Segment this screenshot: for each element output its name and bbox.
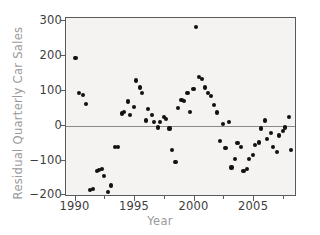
y-tick-mark [60, 194, 65, 195]
x-tick-label: 1990 [59, 199, 89, 213]
data-point [176, 106, 180, 110]
data-point [271, 145, 275, 149]
data-point [209, 94, 213, 98]
x-tick-mark-minor [223, 196, 224, 199]
data-point [126, 99, 130, 103]
data-point [218, 139, 222, 143]
data-point [275, 150, 279, 154]
data-point [239, 145, 243, 149]
data-point [152, 120, 156, 124]
y-tick-label: 200 [39, 48, 62, 62]
data-point [128, 113, 132, 117]
data-point [229, 165, 233, 169]
x-tick-mark-minor [283, 196, 284, 199]
data-point [84, 102, 88, 106]
x-tick-label: 1995 [119, 199, 149, 213]
y-tick-mark [60, 55, 65, 56]
data-point [283, 125, 287, 129]
data-point [106, 190, 110, 194]
data-point [257, 140, 261, 144]
data-point [263, 118, 267, 122]
data-point [259, 126, 263, 130]
y-tick-mark [60, 20, 65, 21]
data-point [185, 91, 189, 95]
data-point [150, 113, 154, 117]
data-point [245, 167, 249, 171]
y-tick-label: −100 [30, 153, 62, 167]
data-point [265, 137, 269, 141]
data-point [191, 87, 195, 91]
data-point [173, 160, 177, 164]
data-point [134, 78, 138, 82]
data-point [277, 133, 281, 137]
data-point [200, 77, 204, 81]
data-point [287, 115, 291, 119]
data-point [73, 56, 77, 60]
data-point [146, 107, 150, 111]
x-tick-label: 2000 [179, 199, 209, 213]
x-tick-mark-minor [104, 196, 105, 199]
y-tick-mark [60, 160, 65, 161]
x-axis-title: Year [0, 214, 320, 228]
y-axis-title: Residual Quarterly Car Sales [11, 13, 25, 213]
data-point [109, 183, 113, 187]
data-point [227, 120, 231, 124]
y-tick-mark [60, 125, 65, 126]
data-point [251, 153, 255, 157]
data-point [140, 91, 144, 95]
data-point [156, 125, 160, 129]
y-tick-label: −200 [30, 187, 62, 201]
y-tick-label: 100 [39, 83, 62, 97]
data-point [132, 105, 136, 109]
data-point [164, 117, 168, 121]
data-point [100, 167, 104, 171]
data-point [122, 110, 126, 114]
y-tick-mark [60, 90, 65, 91]
data-point [233, 157, 237, 161]
data-point [247, 157, 251, 161]
data-point [167, 126, 171, 130]
data-point [138, 85, 142, 89]
data-point [289, 148, 293, 152]
data-point [215, 110, 219, 114]
data-point [144, 118, 148, 122]
data-point [91, 187, 95, 191]
x-tick-label: 2005 [238, 199, 268, 213]
data-point [269, 131, 273, 135]
data-point [116, 145, 120, 149]
data-point [223, 146, 227, 150]
y-tick-label: 300 [39, 13, 62, 27]
data-point [188, 110, 192, 114]
data-point [170, 148, 174, 152]
x-tick-mark-minor [164, 196, 165, 199]
data-point [203, 85, 207, 89]
data-point [81, 93, 85, 97]
plot-area [65, 17, 296, 196]
data-point [194, 25, 198, 29]
data-point [182, 99, 186, 103]
data-point [212, 103, 216, 107]
y-axis: −200−1000100200300 [0, 0, 62, 235]
data-point [158, 120, 162, 124]
data-point [102, 174, 106, 178]
scatter-chart: −200−1000100200300 Residual Quarterly Ca… [0, 0, 320, 235]
